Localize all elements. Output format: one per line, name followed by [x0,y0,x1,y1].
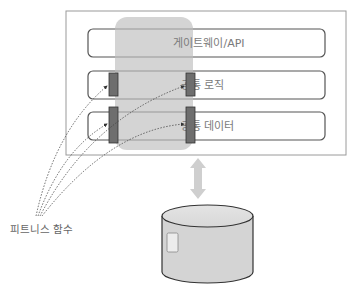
fitness-marker-left-logic [109,73,118,96]
database-icon [162,205,253,283]
database-record-icon [167,233,178,252]
architecture-diagram: 게이트웨이/API 공통 로직 공통 데이터 피트니스 함수 [0,0,351,294]
fitness-function-label: 피트니스 함수 [10,223,73,235]
bidirectional-arrow-icon [190,158,206,199]
layer-gateway-label: 게이트웨이/API [173,37,244,50]
fitness-marker-right-logic [186,73,195,96]
fitness-marker-right-data [186,107,195,143]
